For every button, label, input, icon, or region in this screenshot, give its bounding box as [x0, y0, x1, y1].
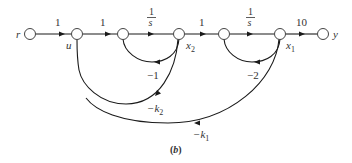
- branch-x1-u: [86, 39, 279, 123]
- branch-x2-u: [77, 39, 178, 104]
- gain-n3-x2-denominator: s: [149, 17, 153, 28]
- feedback-branches: [77, 39, 280, 126]
- gain-n5-x1-numerator: 1: [248, 6, 253, 17]
- label-x2: x2: [185, 39, 195, 54]
- node-r: [25, 29, 36, 40]
- arrow-x1-y-icon: [299, 32, 305, 37]
- gain-x1-u: −k1: [193, 128, 209, 143]
- node-n5: [219, 29, 230, 40]
- label-y: y: [332, 28, 338, 40]
- gain-u-n3: 1: [100, 16, 106, 28]
- arrow-x1-u-icon: [194, 121, 200, 126]
- label-x1: x1: [285, 39, 295, 54]
- arrow-n5-x1-icon: [247, 32, 253, 37]
- node-y: [318, 29, 329, 40]
- branch-x2-n3: [123, 39, 179, 62]
- node-x1: [275, 29, 286, 40]
- signal-flow-graph: r u x2 x1 y 1 1 1 s 1 1 s 10 −1 −2 −k2 −…: [0, 0, 352, 163]
- label-r: r: [16, 28, 21, 40]
- feedback-gain-labels: −1 −2 −k2 −k1: [147, 69, 259, 143]
- arrow-x2-n5-icon: [200, 32, 206, 37]
- gain-n3-x2-numerator: 1: [149, 6, 154, 17]
- gain-x1-n5: −2: [247, 69, 259, 81]
- arrow-r-u-icon: [59, 32, 65, 37]
- forward-gain-labels: 1 1 1 s 1 1 s 10: [55, 6, 308, 28]
- arrow-x1-n5-icon: [254, 60, 260, 65]
- gain-x2-u: −k2: [147, 102, 163, 117]
- gain-x2-n3: −1: [147, 69, 159, 81]
- gain-n5-x1-denominator: s: [248, 17, 252, 28]
- gain-r-u: 1: [55, 16, 61, 28]
- node-n3: [118, 29, 129, 40]
- branch-x1-n5: [224, 39, 280, 62]
- gain-x1-y: 10: [296, 16, 308, 28]
- node-x2: [174, 29, 185, 40]
- node-u: [72, 29, 83, 40]
- arrow-u-n3-icon: [105, 32, 111, 37]
- label-u: u: [66, 39, 72, 51]
- figure-caption: (b): [170, 144, 182, 156]
- gain-x2-n5: 1: [199, 16, 205, 28]
- arrow-n3-x2-icon: [148, 32, 154, 37]
- arrow-x2-n3-icon: [154, 60, 160, 65]
